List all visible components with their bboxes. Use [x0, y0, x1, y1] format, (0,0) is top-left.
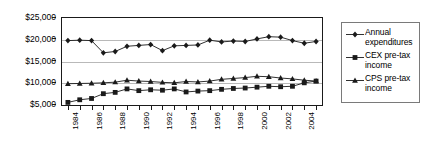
legend-square-icon — [345, 52, 365, 63]
series-layer — [62, 18, 322, 105]
chart-legend: AnnualexpendituresCEX pre-taxincomeCPS p… — [341, 22, 420, 103]
triangle-marker — [254, 73, 260, 78]
y-axis-tick — [52, 38, 56, 39]
x-axis-tick — [304, 106, 305, 110]
diamond-marker — [254, 36, 259, 42]
x-axis-tick — [186, 106, 187, 110]
diamond-marker — [290, 38, 295, 44]
legend-label-line2: income — [365, 84, 410, 94]
square-marker — [101, 91, 106, 96]
diamond-marker — [183, 43, 188, 49]
triangle-marker — [183, 79, 189, 84]
diamond-marker — [231, 38, 236, 44]
square-marker — [290, 84, 295, 89]
diamond-marker — [124, 43, 129, 49]
legend-item[interactable]: CPS pre-taxincome — [345, 74, 416, 93]
square-marker — [266, 84, 271, 89]
diamond-marker — [266, 34, 271, 40]
x-axis-tick-label: 1988 — [119, 112, 127, 130]
square-marker — [196, 89, 201, 94]
x-axis-tick-label: 1992 — [166, 112, 174, 130]
diamond-marker — [278, 34, 283, 40]
legend-label: CEX pre-taxincome — [365, 51, 410, 70]
diamond-marker — [219, 39, 224, 45]
series-triangle — [65, 73, 319, 86]
x-axis-tick — [292, 106, 293, 110]
square-marker — [148, 87, 153, 92]
legend-diamond-icon — [345, 29, 365, 40]
diamond-marker — [207, 37, 212, 43]
diamond-marker — [352, 32, 357, 38]
x-axis-tick-label: 2002 — [285, 112, 293, 130]
x-axis-tick-label: 2004 — [308, 112, 316, 130]
diamond-marker — [302, 40, 307, 46]
plot-area — [61, 17, 323, 106]
diamond-marker — [160, 48, 165, 54]
triangle-marker — [124, 77, 130, 82]
diamond-marker — [195, 42, 200, 48]
x-axis-tick — [103, 106, 104, 110]
square-marker — [160, 88, 165, 93]
square-marker — [219, 87, 224, 92]
legend-triangle-icon — [345, 75, 365, 86]
x-axis-tick — [222, 106, 223, 110]
series-line — [68, 37, 316, 53]
x-axis-tick — [245, 106, 246, 110]
square-marker — [136, 88, 141, 93]
square-marker — [89, 96, 94, 101]
square-marker — [77, 97, 82, 102]
x-axis-tick — [174, 106, 175, 110]
x-axis-tick — [281, 106, 282, 110]
chart-container: $25,000$20,000$15,000$10,000$5,000 19841… — [0, 0, 442, 153]
square-marker — [184, 90, 189, 95]
square-marker — [278, 84, 283, 89]
legend-item[interactable]: Annualexpenditures — [345, 28, 416, 47]
x-axis-tick-label: 1986 — [96, 112, 104, 130]
legend-label-line2: income — [365, 61, 410, 71]
y-axis-labels: $25,000$20,000$15,000$10,000$5,000 — [0, 0, 56, 153]
square-marker — [243, 86, 248, 91]
square-marker — [255, 85, 260, 90]
square-marker — [66, 100, 71, 105]
x-axis-tick — [162, 106, 163, 110]
square-marker — [353, 55, 358, 60]
x-axis-tick — [92, 106, 93, 110]
x-axis: 1984198619881990199219941996199820002002… — [61, 106, 323, 153]
x-axis-tick-label: 1998 — [237, 112, 245, 130]
square-marker — [231, 86, 236, 91]
series-diamond — [65, 34, 318, 56]
x-axis-tick — [127, 106, 128, 110]
x-axis-tick-label: 1994 — [190, 112, 198, 130]
legend-label: Annualexpenditures — [365, 28, 412, 47]
square-marker — [207, 88, 212, 93]
square-marker — [172, 87, 177, 92]
y-axis-tick — [52, 104, 56, 105]
diamond-marker — [172, 43, 177, 49]
square-marker — [113, 90, 118, 95]
x-axis-tick — [68, 106, 69, 110]
diamond-marker — [136, 43, 141, 49]
y-axis-tick — [52, 60, 56, 61]
legend-label-line2: expenditures — [365, 38, 412, 48]
x-axis-tick — [210, 106, 211, 110]
legend-label: CPS pre-taxincome — [365, 74, 410, 93]
x-axis-tick — [269, 106, 270, 110]
x-axis-tick — [198, 106, 199, 110]
x-axis-tick — [233, 106, 234, 110]
x-axis-tick — [151, 106, 152, 110]
square-marker — [125, 87, 130, 92]
x-axis-tick — [139, 106, 140, 110]
x-axis-tick — [80, 106, 81, 110]
y-axis-tick — [52, 82, 56, 83]
diamond-marker — [113, 49, 118, 55]
diamond-marker — [77, 37, 82, 43]
diamond-marker — [148, 42, 153, 48]
x-axis-tick-label: 1996 — [214, 112, 222, 130]
x-axis-tick — [316, 106, 317, 110]
x-axis-tick — [257, 106, 258, 110]
legend-item[interactable]: CEX pre-taxincome — [345, 51, 416, 70]
diamond-marker — [313, 39, 318, 45]
diamond-marker — [243, 39, 248, 45]
x-axis-tick-label: 1984 — [72, 112, 80, 130]
x-axis-tick-label: 2000 — [261, 112, 269, 130]
